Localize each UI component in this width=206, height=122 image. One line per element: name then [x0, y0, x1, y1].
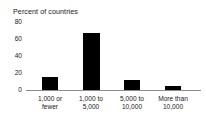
- plot-area: 80 60 40 20 0 1,000 or fewer 1,000 to 5,…: [0, 0, 206, 122]
- bar-more-than-10000: [165, 86, 181, 90]
- y-axis-tick-60: 60: [6, 35, 22, 42]
- y-axis-tick-40: 40: [6, 52, 22, 59]
- bar-1000-or-fewer: [42, 77, 58, 90]
- y-axis-tick-0: 0: [6, 86, 22, 93]
- bar-5000-to-10000: [124, 80, 140, 90]
- y-axis-tick-80: 80: [6, 18, 22, 25]
- x-axis-label-more-than-10000: More than 10,000: [145, 95, 201, 111]
- y-axis-tick-20: 20: [6, 69, 22, 76]
- bar-1000-to-5000: [83, 33, 100, 90]
- x-axis-line: [26, 90, 201, 91]
- bar-chart: Percent of countries 80 60 40 20 0 1,000…: [0, 0, 206, 122]
